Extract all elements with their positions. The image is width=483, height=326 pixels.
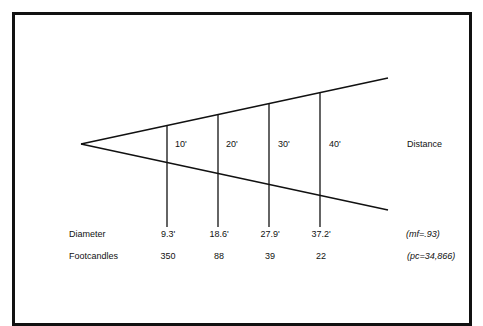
peak-candela-note: (pc=34,866) bbox=[407, 251, 455, 262]
beam-upper-edge bbox=[81, 78, 388, 144]
distance-mark-40: 40' bbox=[329, 139, 341, 150]
footcandles-value-30: 39 bbox=[265, 251, 275, 262]
footcandles-value-20: 88 bbox=[214, 251, 224, 262]
distance-mark-20: 20' bbox=[226, 139, 238, 150]
diameter-value-10: 9.3' bbox=[161, 229, 175, 240]
beam-cone-diagram bbox=[0, 0, 483, 326]
footcandles-value-40: 22 bbox=[316, 251, 326, 262]
multiplying-factor-note: (mf=.93) bbox=[406, 229, 440, 240]
diameter-value-20: 18.6' bbox=[209, 229, 228, 240]
distance-mark-30: 30' bbox=[278, 139, 290, 150]
footcandles-value-10: 350 bbox=[160, 251, 175, 262]
beam-lower-edge bbox=[81, 144, 388, 210]
footcandles-label: Footcandles bbox=[69, 251, 118, 262]
diameter-label: Diameter bbox=[69, 229, 106, 240]
diameter-value-40: 37.2' bbox=[311, 229, 330, 240]
distance-mark-10: 10' bbox=[175, 139, 187, 150]
distance-label: Distance bbox=[407, 139, 442, 150]
diameter-value-30: 27.9' bbox=[260, 229, 279, 240]
